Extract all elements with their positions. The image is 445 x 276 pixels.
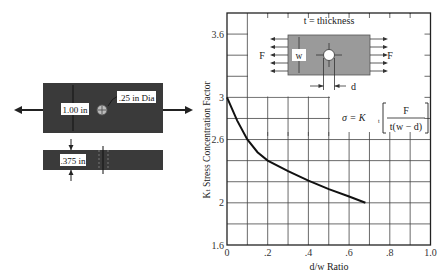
x-tick-label: .2: [264, 247, 272, 258]
formula-lhs: σ = K: [342, 112, 367, 123]
inset-hole-icon: [324, 50, 335, 61]
y-axis-label: Kₜ Stress Concentration Factor: [202, 81, 212, 199]
x-tick-label: .6: [345, 247, 353, 258]
arrowhead-up-icon: [69, 170, 74, 175]
width-label: 1.00 in: [62, 105, 88, 115]
y-tick-label: 3.6: [212, 29, 225, 40]
inset-width-symbol: w: [296, 51, 303, 61]
y-tick-label: 3: [219, 92, 224, 103]
inset-force-right: F: [387, 50, 393, 61]
hole-label: .25 in Dia: [119, 93, 155, 103]
arrowhead-left-icon: [14, 106, 22, 114]
inset-thickness-label: t = thickness: [304, 15, 355, 26]
formula-denominator: t(w − d): [390, 121, 422, 133]
y-tick-label: 2: [219, 197, 224, 208]
x-axis-label: d/w Ratio: [309, 261, 348, 272]
x-tick-label: 1.0: [424, 247, 437, 258]
left-diagram: 1.00 in .25 in Dia .375 in: [14, 83, 193, 181]
thickness-label: .375 in: [60, 156, 86, 166]
y-tick-label: 2.6: [212, 134, 225, 145]
chart: 1.622.633.6 0.2.4.6.81.0 d/w Ratio Kₜ St…: [202, 13, 437, 272]
arrowhead-right-icon: [185, 106, 193, 114]
y-tick-labels: 1.622.633.6: [212, 29, 225, 251]
x-tick-label: .8: [386, 247, 394, 258]
x-tick-label: 0: [225, 247, 230, 258]
y-tick-label: 1.6: [212, 240, 225, 251]
figure-canvas: 1.00 in .25 in Dia .375 in 1.622.633.6 0…: [0, 0, 445, 276]
inset-diameter-symbol: d: [351, 81, 356, 92]
formula-numerator: F: [403, 105, 409, 116]
arrowhead-down-icon: [69, 145, 74, 150]
x-tick-label: .4: [305, 247, 313, 258]
x-tick-labels: 0.2.4.6.81.0: [225, 247, 437, 258]
inset-force-left: F: [259, 50, 265, 61]
